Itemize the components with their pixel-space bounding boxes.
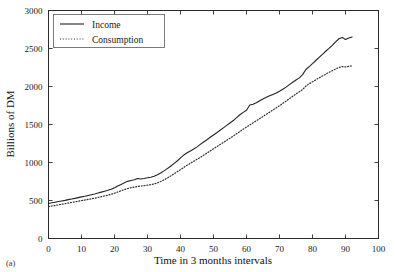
x-tick-label: 70 — [275, 244, 285, 254]
x-tick-label: 20 — [110, 244, 120, 254]
x-tick-label: 40 — [176, 244, 186, 254]
y-axis-title: Billions of DM — [4, 90, 16, 157]
income-consumption-line-chart: 0102030405060708090100 05001000150020002… — [0, 0, 398, 272]
x-tick-label: 60 — [242, 244, 252, 254]
x-tick-label: 50 — [209, 244, 219, 254]
y-tick-label: 1500 — [25, 120, 44, 130]
x-tick-label: 90 — [341, 244, 351, 254]
figure-container: 0102030405060708090100 05001000150020002… — [0, 0, 398, 272]
y-tick-label: 1000 — [25, 158, 44, 168]
y-tick-label: 0 — [38, 234, 43, 244]
x-tick-label: 30 — [143, 244, 153, 254]
x-tick-label: 80 — [308, 244, 318, 254]
legend-label-consumption: Consumption — [92, 35, 143, 45]
y-tick-label: 2000 — [25, 82, 44, 92]
legend: Income Consumption — [54, 15, 165, 48]
y-tick-label: 2500 — [25, 44, 44, 54]
y-tick-label: 500 — [29, 196, 43, 206]
y-tick-label: 3000 — [25, 6, 44, 16]
panel-label: (a) — [6, 258, 16, 268]
x-tick-label: 10 — [77, 244, 87, 254]
x-tick-label: 0 — [46, 244, 51, 254]
legend-label-income: Income — [92, 20, 121, 30]
x-axis-title: Time in 3 months intervals — [154, 254, 272, 266]
x-tick-label: 100 — [372, 244, 386, 254]
